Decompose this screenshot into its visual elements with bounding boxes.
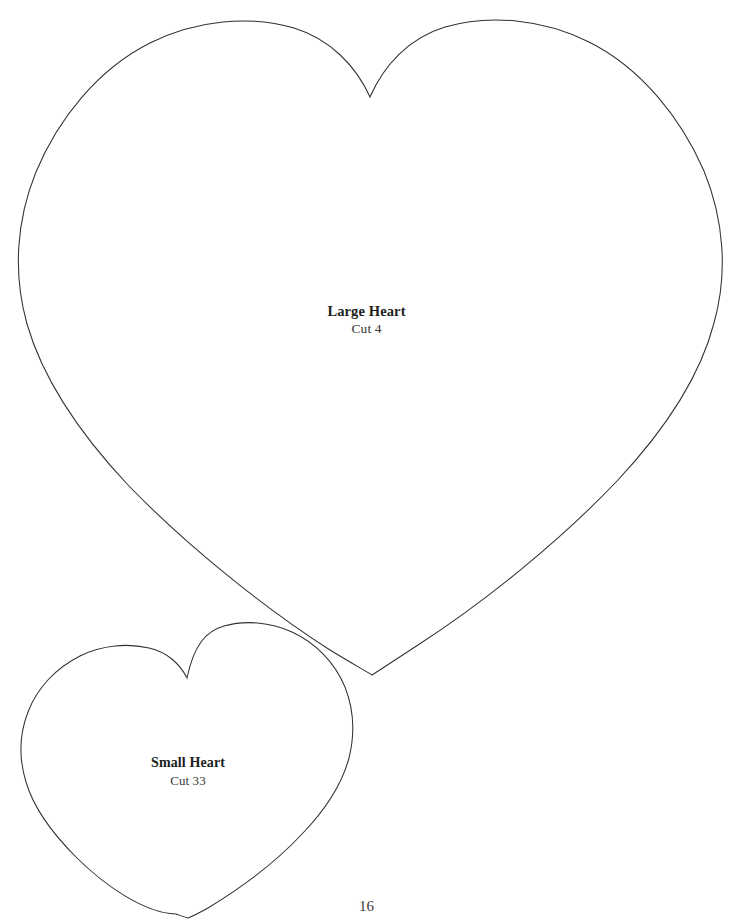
page-number: 16 (0, 898, 733, 915)
large-heart-cut-count: Cut 4 (0, 321, 733, 337)
pattern-sheet-page: Large Heart Cut 4 Small Heart Cut 33 16 (0, 0, 733, 921)
small-heart-cut-count: Cut 33 (0, 773, 376, 788)
large-heart-title: Large Heart (0, 303, 733, 320)
large-heart-label-block: Large Heart Cut 4 (0, 303, 733, 337)
small-heart-label-block: Small Heart Cut 33 (0, 755, 376, 788)
small-heart-title: Small Heart (0, 755, 376, 772)
